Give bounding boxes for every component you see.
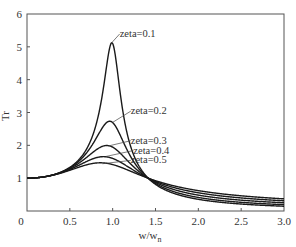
x-tick-label: 3.0: [277, 215, 291, 227]
y-tick-label: 4: [17, 74, 23, 86]
y-axis-ticks: 123456: [17, 8, 31, 184]
annotation-leader: [108, 141, 130, 146]
x-tick-label: 0: [18, 215, 24, 227]
curve-zeta-0.5: [27, 163, 284, 199]
y-tick-label: 1: [17, 172, 23, 184]
x-tick-label: 1.5: [149, 215, 163, 227]
x-tick-label: 0.5: [63, 215, 77, 227]
transmissibility-chart: 00.51.01.52.02.53.0 123456 zeta=0.1zeta=…: [0, 0, 296, 247]
x-tick-label: 2.0: [191, 215, 205, 227]
annotation-label: zeta=0.5: [131, 154, 167, 165]
x-tick-label: 2.5: [234, 215, 248, 227]
annotation-label: zeta=0.1: [120, 28, 156, 39]
y-axis-label: Tr: [0, 111, 11, 121]
y-tick-label: 6: [17, 8, 23, 20]
x-axis-label: w/wn: [139, 229, 162, 244]
annotation-label: zeta=0.2: [131, 105, 167, 116]
y-tick-label: 5: [17, 41, 23, 53]
x-tick-label: 1.0: [106, 215, 120, 227]
curves: [27, 43, 284, 206]
curve-annotations: zeta=0.1zeta=0.2zeta=0.3zeta=0.4zeta=0.5: [102, 28, 170, 165]
y-tick-label: 2: [17, 139, 23, 151]
y-tick-label: 3: [17, 107, 23, 119]
annotation-leader: [111, 34, 120, 44]
annotation-leader: [113, 111, 131, 122]
